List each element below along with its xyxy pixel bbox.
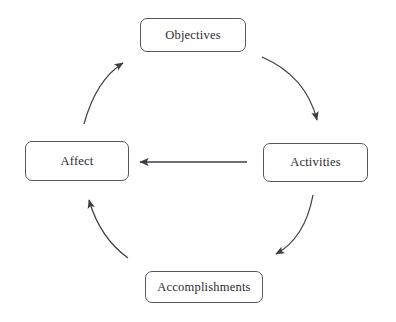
arrow-affect-to-objectives <box>84 63 123 124</box>
node-affect-label: Affect <box>61 154 94 169</box>
node-affect[interactable]: Affect <box>25 141 129 181</box>
node-objectives[interactable]: Objectives <box>140 18 246 52</box>
node-accomplishments-label: Accomplishments <box>157 280 250 295</box>
arrow-objectives-to-activities <box>262 57 317 120</box>
arrow-accomplishments-to-affect <box>89 200 128 258</box>
node-accomplishments[interactable]: Accomplishments <box>145 271 263 303</box>
arrow-activities-to-accomplishments <box>276 195 313 254</box>
node-objectives-label: Objectives <box>165 28 220 43</box>
node-activities[interactable]: Activities <box>263 143 368 182</box>
node-activities-label: Activities <box>290 155 341 170</box>
